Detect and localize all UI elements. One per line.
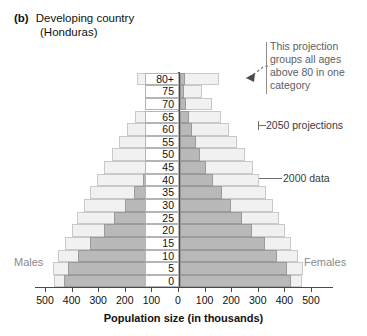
bar-2000-females bbox=[180, 98, 187, 111]
bar-2000-females bbox=[180, 73, 185, 86]
age-group-label: 20 bbox=[145, 224, 179, 237]
x-tick-label: 500 bbox=[36, 294, 54, 306]
pyramid-row: 75 bbox=[35, 85, 333, 98]
age-group-label: 5 bbox=[145, 262, 179, 275]
pyramid-row: 0 bbox=[35, 274, 333, 287]
pyramid-row: 15 bbox=[35, 236, 333, 249]
age-group-label: 55 bbox=[145, 136, 179, 149]
bar-2000-females bbox=[180, 85, 184, 98]
x-tick-label: 200 bbox=[222, 294, 240, 306]
bar-2000-females bbox=[180, 174, 214, 187]
x-tick bbox=[258, 287, 259, 292]
pyramid-row: 40 bbox=[35, 173, 333, 186]
x-tick-label: 100 bbox=[143, 294, 161, 306]
age-group-label: 75 bbox=[145, 85, 179, 98]
x-axis-line bbox=[35, 287, 333, 288]
pyramid-row: 70 bbox=[35, 97, 333, 110]
x-tick-label: 500 bbox=[302, 294, 320, 306]
pyramid-row: 5 bbox=[35, 262, 333, 275]
bar-2000-females bbox=[180, 224, 252, 237]
figure-title-line1: Developing country bbox=[36, 12, 134, 24]
age-group-label: 25 bbox=[145, 212, 179, 225]
bar-2000-females bbox=[180, 250, 277, 263]
bar-2000-females bbox=[180, 186, 223, 199]
age-group-label: 10 bbox=[145, 250, 179, 263]
x-tick bbox=[311, 287, 312, 292]
pyramid-row: 25 bbox=[35, 211, 333, 224]
x-tick bbox=[45, 287, 46, 292]
x-tick bbox=[98, 287, 99, 292]
bar-2000-females bbox=[180, 123, 192, 136]
bar-2000-females bbox=[180, 262, 288, 275]
x-tick-label: 300 bbox=[249, 294, 267, 306]
x-tick-label: 400 bbox=[276, 294, 294, 306]
x-tick-label: 0 bbox=[175, 294, 181, 306]
pyramid-row: 55 bbox=[35, 135, 333, 148]
x-tick bbox=[284, 287, 285, 292]
x-tick bbox=[125, 287, 126, 292]
bar-2000-females bbox=[180, 199, 232, 212]
x-tick-label: 100 bbox=[196, 294, 214, 306]
bar-2000-females bbox=[180, 275, 292, 288]
bar-2000-females bbox=[180, 111, 189, 124]
pyramid-row: 50 bbox=[35, 148, 333, 161]
pyramid-row: 45 bbox=[35, 160, 333, 173]
x-tick bbox=[178, 287, 179, 292]
x-tick bbox=[205, 287, 206, 292]
pyramid-row: 60 bbox=[35, 123, 333, 136]
age-group-label: 40 bbox=[145, 174, 179, 187]
pyramid-row: 65 bbox=[35, 110, 333, 123]
age-group-label: 70 bbox=[145, 98, 179, 111]
age-group-label: 15 bbox=[145, 237, 179, 250]
pyramid-row: 10 bbox=[35, 249, 333, 262]
age-group-label: 30 bbox=[145, 199, 179, 212]
x-tick bbox=[72, 287, 73, 292]
pyramid-row: 80+ bbox=[35, 72, 333, 85]
bar-2000-females bbox=[180, 237, 265, 250]
population-pyramid-figure: (b)Developing country (Honduras) This pr… bbox=[0, 0, 367, 336]
age-group-label: 80+ bbox=[145, 73, 179, 86]
x-tick-label: 300 bbox=[89, 294, 107, 306]
x-tick-label: 400 bbox=[63, 294, 81, 306]
bar-2000-females bbox=[180, 148, 201, 161]
figure-title-line2: (Honduras) bbox=[40, 25, 134, 39]
age-group-label: 50 bbox=[145, 148, 179, 161]
age-group-label: 60 bbox=[145, 123, 179, 136]
figure-tag: (b) bbox=[14, 12, 29, 24]
figure-title: (b)Developing country (Honduras) bbox=[14, 11, 134, 39]
age-group-label: 0 bbox=[145, 275, 179, 288]
x-tick-label: 200 bbox=[116, 294, 134, 306]
x-tick bbox=[151, 287, 152, 292]
pyramid-row: 20 bbox=[35, 224, 333, 237]
age-group-label: 35 bbox=[145, 186, 179, 199]
pyramid-plot-area: 80+757065605550454035302520151050 bbox=[35, 72, 333, 287]
bar-2000-females bbox=[180, 161, 206, 174]
pyramid-row: 35 bbox=[35, 186, 333, 199]
pyramid-row: 30 bbox=[35, 198, 333, 211]
x-tick bbox=[231, 287, 232, 292]
age-group-label: 65 bbox=[145, 111, 179, 124]
bar-2000-females bbox=[180, 212, 242, 225]
bar-2000-females bbox=[180, 136, 196, 149]
bar-2050-females bbox=[180, 73, 220, 86]
age-group-label: 45 bbox=[145, 161, 179, 174]
x-axis-label: Population size (in thousands) bbox=[0, 312, 367, 324]
